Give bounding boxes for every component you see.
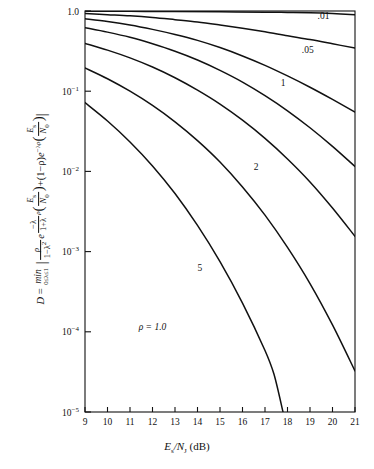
x-tick-label: 10 [103, 417, 113, 427]
annotation-rho: ρ = 1.0 [138, 322, 167, 332]
curve-.05 [85, 19, 355, 112]
x-tick-label: 11 [125, 417, 134, 427]
curve-label-.1: 1 [281, 78, 286, 88]
x-tick-label: 14 [193, 417, 203, 427]
x-tick-label: 15 [215, 417, 225, 427]
curve-.01 [85, 14, 355, 49]
curve-label-.2: 2 [254, 162, 259, 172]
x-tick-group: 9101112131415161718192021 [83, 407, 360, 427]
y-tick-label: 10−3 [62, 245, 79, 257]
curve-label-.5: 5 [197, 263, 202, 273]
plot-area: 9101112131415161718192021 1.010−110−210−… [0, 0, 374, 469]
chart-root: D = min 0≤λ≤1 |ρ1−λ2e−λ1+λρ(EsN0)+(1−ρ)e… [0, 0, 374, 469]
x-tick-label: 20 [328, 417, 338, 427]
x-tick-label: 18 [283, 417, 293, 427]
curve-1.0 [85, 103, 283, 412]
x-tick-label: 12 [148, 417, 158, 427]
x-tick-label: 19 [305, 417, 315, 427]
x-tick-label: 9 [83, 417, 88, 427]
y-tick-label: 10−4 [62, 325, 79, 337]
curve-.2 [85, 43, 355, 236]
x-tick-label: 13 [170, 417, 180, 427]
x-tick-label: 17 [260, 417, 270, 427]
y-tick-label: 10−2 [62, 165, 79, 177]
y-tick-label: 10−1 [62, 85, 79, 97]
x-tick-label: 16 [238, 417, 248, 427]
curve-.5 [85, 68, 355, 371]
curve-group [85, 11, 355, 412]
y-tick-label: 10−5 [62, 406, 79, 418]
x-tick-label: 21 [350, 417, 360, 427]
curve-.1 [85, 28, 355, 167]
y-tick-label: 1.0 [67, 7, 79, 17]
curve-label-.05: .05 [302, 45, 314, 55]
curve-label-.01: .01 [318, 11, 330, 21]
curve-top [85, 11, 355, 15]
plot-svg: 9101112131415161718192021 1.010−110−210−… [0, 0, 374, 469]
